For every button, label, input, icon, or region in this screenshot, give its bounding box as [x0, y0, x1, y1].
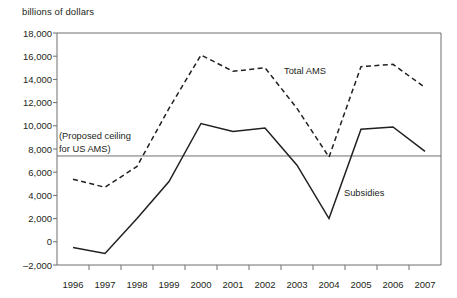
x-tick-label: 2002	[254, 279, 275, 290]
x-tick-label: 2001	[222, 279, 243, 290]
x-tick-label: 2000	[190, 279, 211, 290]
x-tick-label: 2006	[382, 279, 403, 290]
subsidies-label: Subsidies	[344, 188, 385, 198]
x-axis-ticks	[89, 265, 409, 270]
y-tick-label: 4,000	[28, 190, 52, 201]
y-axis-ticks	[53, 33, 57, 265]
y-tick-label: 16,000	[23, 51, 52, 62]
y-tick-label: 10,000	[23, 120, 52, 131]
proposed-ceiling-label-line1: (Proposed ceiling	[59, 131, 131, 141]
chart-plot-area: 18,000 16,000 14,000 12,000 10,000 8,000…	[0, 0, 457, 298]
x-tick-label: 1998	[126, 279, 147, 290]
y-axis-tick-labels: 18,000 16,000 14,000 12,000 10,000 8,000…	[23, 28, 52, 271]
proposed-ceiling-label-line2: for US AMS)	[59, 144, 111, 154]
x-axis-tick-labels: 1996 1997 1998 1999 2000 2001 2002 2003 …	[62, 279, 435, 290]
total-ams-label: Total AMS	[284, 66, 326, 76]
y-tick-label: 0	[47, 236, 52, 247]
y-tick-label: 8,000	[28, 144, 52, 155]
y-tick-label: 18,000	[23, 28, 52, 39]
y-tick-label: 14,000	[23, 74, 52, 85]
y-tick-label: 6,000	[28, 167, 52, 178]
y-tick-label: 12,000	[23, 97, 52, 108]
series-total-ams	[73, 55, 425, 187]
x-tick-label: 2003	[286, 279, 307, 290]
axis-frame	[57, 33, 441, 265]
x-tick-label: 1997	[94, 279, 115, 290]
y-tick-label: –2,000	[23, 260, 52, 271]
x-tick-label: 2007	[414, 279, 435, 290]
x-tick-label: 1996	[62, 279, 83, 290]
x-tick-label: 2005	[350, 279, 371, 290]
x-tick-label: 1999	[158, 279, 179, 290]
y-tick-label: 2,000	[28, 213, 52, 224]
x-tick-label: 2004	[318, 279, 339, 290]
chart-figure: billions of dollars 18,000 16,000 14,000…	[0, 0, 457, 298]
proposed-ceiling-annotation: (Proposed ceiling for US AMS)	[59, 131, 131, 154]
